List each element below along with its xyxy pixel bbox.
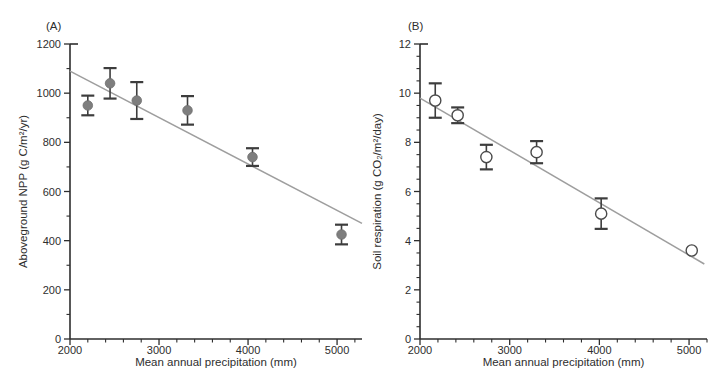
data-point-marker [481,151,492,162]
y-tick-label: 200 [43,284,61,296]
trend-line [70,71,362,223]
data-point-marker [83,101,93,111]
data-point-marker [596,208,607,219]
data-point-marker [337,230,347,240]
data-point-marker [452,110,463,121]
x-tick-label: 4000 [587,344,611,356]
y-tick-label: 6 [405,186,411,198]
y-tick-label: 10 [399,87,411,99]
x-tick-label: 3000 [147,344,171,356]
x-axis-title: Mean annual precipitation (mm) [483,356,645,368]
data-point-marker [248,152,258,162]
y-tick-label: 1200 [37,38,61,50]
x-tick-label: 3000 [497,344,521,356]
y-tick-label: 400 [43,235,61,247]
y-axis-title: Soil respiration (g CO₂/m²/day) [371,113,383,270]
data-point-marker [686,245,697,256]
panel-label: (A) [46,20,62,32]
y-tick-label: 0 [405,333,411,345]
chart-panel-a: 2000300040005000020040060080010001200Mea… [0,0,364,391]
panel-label: (B) [408,20,424,32]
x-axis-title: Mean annual precipitation (mm) [135,356,297,368]
data-point-marker [531,147,542,158]
data-point-marker [183,106,193,116]
x-tick-label: 5000 [325,344,349,356]
x-tick-label: 5000 [677,344,701,356]
x-tick-label: 2000 [58,344,82,356]
y-tick-label: 8 [405,136,411,148]
x-tick-label: 4000 [236,344,260,356]
y-tick-label: 800 [43,136,61,148]
data-point-marker [132,96,142,106]
y-tick-label: 12 [399,38,411,50]
data-point-marker [430,95,441,106]
chart-panel-b: 2000300040005000024681012Mean annual pre… [364,0,728,391]
y-tick-label: 600 [43,186,61,198]
y-axis-title: Aboveground NPP (g C/m²/yr) [17,115,29,268]
x-tick-label: 2000 [408,344,432,356]
y-tick-label: 2 [405,284,411,296]
y-tick-label: 1000 [37,87,61,99]
data-point-marker [105,79,115,89]
y-tick-label: 4 [405,235,411,247]
y-tick-label: 0 [55,333,61,345]
two-panel-scatter-figure: 2000300040005000020040060080010001200Mea… [0,0,728,391]
